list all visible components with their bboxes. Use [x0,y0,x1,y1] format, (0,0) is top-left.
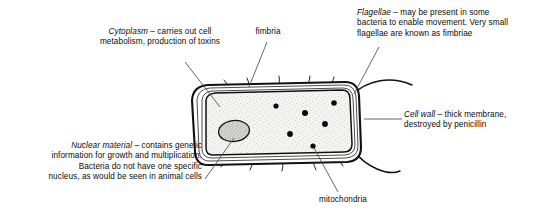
bacterial-cell-figure: Cytoplasm – carries out cell metabolism,… [0,0,552,219]
annotation-cell-wall: Cell wall – thick membrane, destroyed by… [404,110,546,131]
mitochondrion-dot [322,121,328,127]
mitochondrion-dot [302,110,308,116]
annotation-flagellae: Flagellae – may be present in some bacte… [357,8,543,39]
mitochondrion-dot [273,103,278,108]
annotation-flagellae-term: Flagellae [357,8,391,17]
mitochondrion-dot [331,100,337,106]
annotation-cell-wall-term: Cell wall [404,110,435,119]
annotation-cytoplasm-term: Cytoplasm [109,27,148,36]
annotation-nuclear-material-term: Nuclear material [71,141,132,150]
annotation-mitochondria-text: mitochondria [319,195,367,204]
annotation-nuclear-material: Nuclear material – contains genetic info… [10,141,202,183]
annotation-fimbria-text: fimbria [255,27,280,36]
flagellum-upper [352,80,412,95]
mitochondrion-dot [310,143,315,148]
annotation-fimbria: fimbria [238,27,298,37]
mitochondrion-dot [287,131,293,137]
leader-flagellae [354,47,379,94]
annotation-mitochondria: mitochondria [300,195,386,205]
annotation-cytoplasm: Cytoplasm – carries out cell metabolism,… [84,27,236,48]
leader-fimbria [249,42,267,87]
